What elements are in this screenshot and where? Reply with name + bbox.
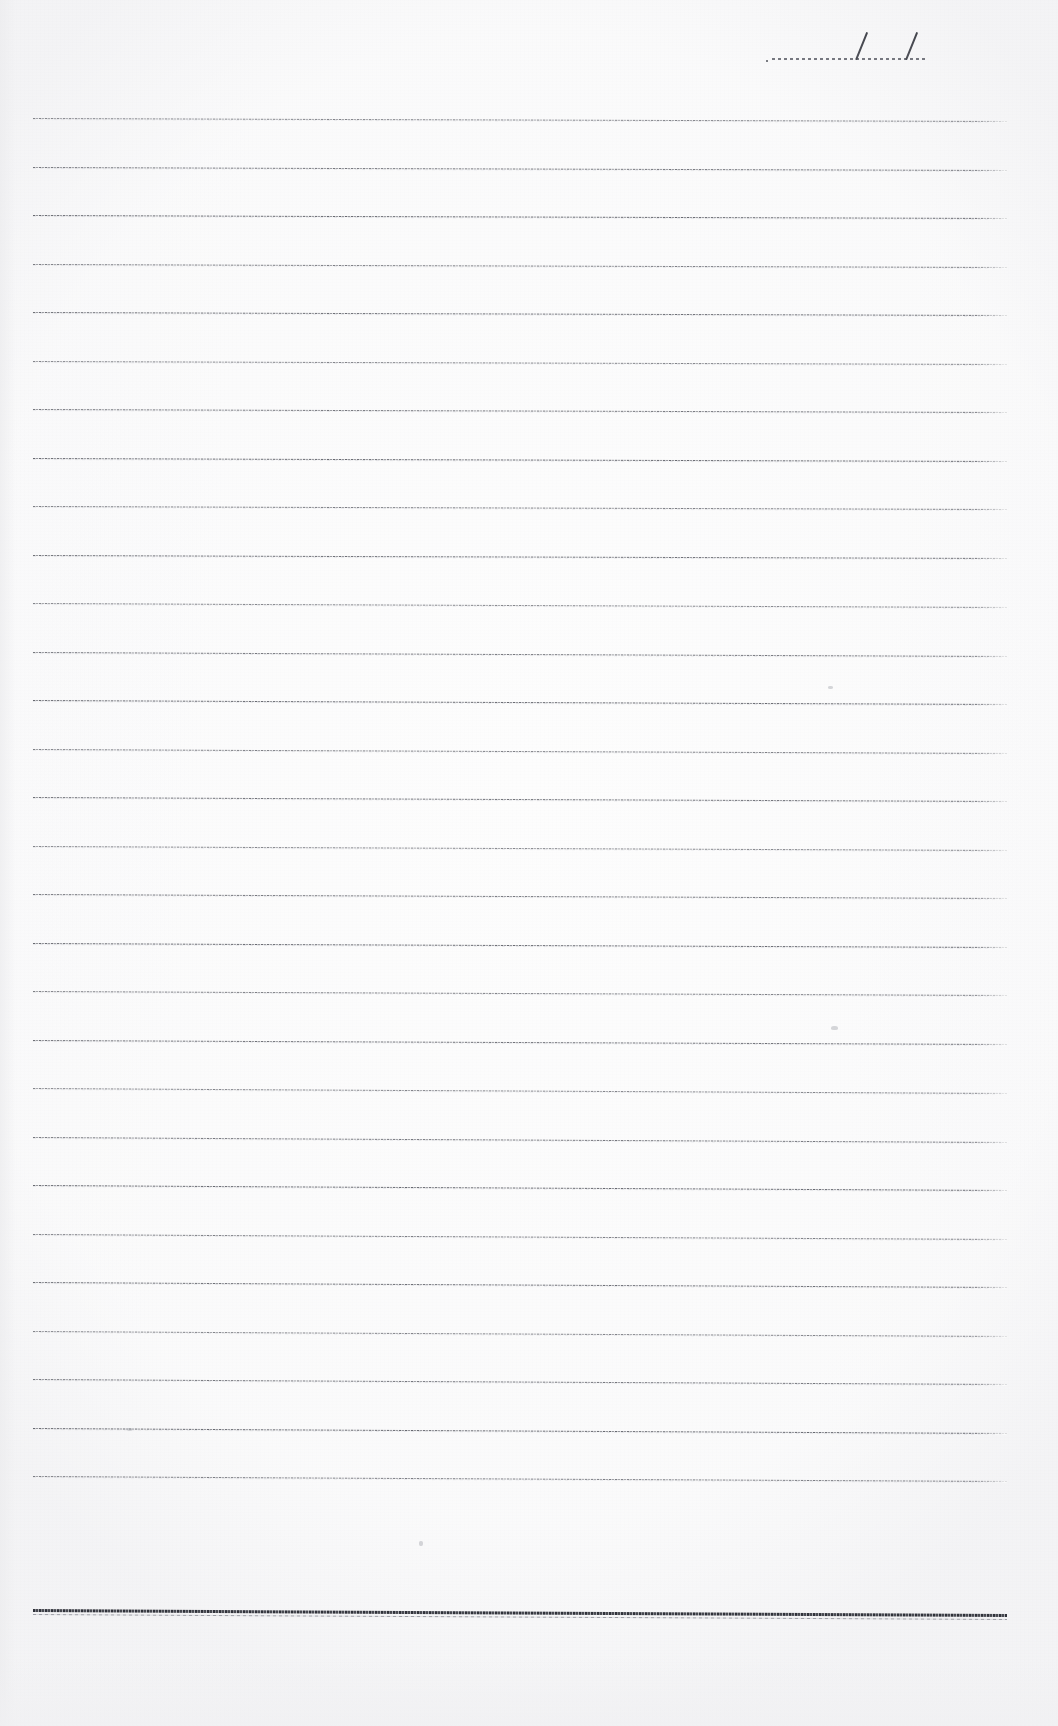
bottom-rule-heavy-stroke	[33, 1609, 1007, 1617]
scan-edge-shadow-left	[0, 0, 16, 1726]
bottom-heavy-rule	[33, 1609, 1007, 1622]
writing-surface[interactable]	[33, 100, 1007, 1600]
scan-edge-shadow-bottom	[0, 1656, 1058, 1726]
date-field-dotted-rule	[772, 58, 926, 60]
date-separator-slash	[905, 32, 918, 61]
bottom-rule-hairline-stroke	[33, 1614, 1007, 1620]
scanned-page	[0, 0, 1058, 1726]
date-field-lead-dot	[766, 60, 768, 62]
date-separator-slash	[855, 32, 868, 61]
